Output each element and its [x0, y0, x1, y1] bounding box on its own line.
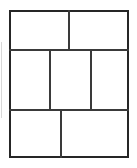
cell-top-right: 2: [69, 10, 129, 49]
cell-middle-left: 3: [9, 49, 50, 109]
rectangle-partition-diagram: 1 2 3 4 5 6 7: [9, 10, 129, 158]
cell-bottom-right: 7: [61, 109, 129, 158]
cell-middle-center: 4: [50, 49, 91, 109]
cell-middle-right: 5: [91, 49, 129, 109]
scan-artifact-line: [1, 42, 2, 118]
figure-root: 1 2 3 4 5 6 7: [0, 0, 137, 168]
cell-bottom-left: 6: [9, 109, 61, 158]
cell-top-left: 1: [9, 10, 69, 49]
